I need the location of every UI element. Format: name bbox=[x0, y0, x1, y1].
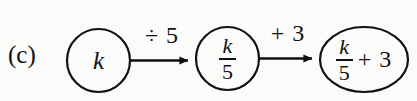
fraction-numerator: k bbox=[337, 36, 351, 59]
node-label-1: k bbox=[67, 29, 130, 92]
fraction-numerator: k bbox=[221, 35, 235, 58]
fraction-k-over-5-output: k 5 bbox=[336, 36, 353, 84]
fraction-denominator: 5 bbox=[337, 61, 352, 84]
output-addend: + 3 bbox=[358, 46, 393, 73]
operation-label-divide: ÷ 5 bbox=[133, 21, 191, 49]
node-label-3: k 5 + 3 bbox=[320, 27, 408, 92]
fraction-k-over-5: k 5 bbox=[219, 35, 236, 83]
function-machine-figure: (c) k k 5 k 5 + 3 ÷ 5 + 3 bbox=[0, 0, 417, 101]
operation-label-add: + 3 bbox=[259, 19, 317, 47]
fraction-denominator: 5 bbox=[220, 60, 235, 83]
node-label-2: k 5 bbox=[196, 27, 259, 90]
part-label: (c) bbox=[8, 40, 52, 70]
node-1-variable: k bbox=[93, 47, 104, 75]
